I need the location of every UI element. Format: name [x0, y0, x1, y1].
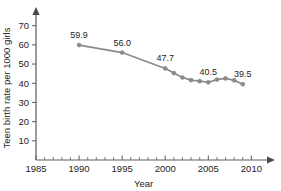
series-data-point: [163, 66, 167, 70]
data-point-label: 40.5: [200, 67, 218, 77]
y-tick-label: 50: [18, 58, 29, 69]
y-axis-title: Teen birth rate per 1000 girls: [1, 27, 12, 148]
x-axis-title: Year: [134, 178, 153, 189]
series-data-point: [180, 75, 184, 79]
y-tick-label: 60: [18, 39, 29, 50]
x-axis-tick-labels: 198519901995200020052010: [25, 163, 262, 174]
y-axis-tick-labels: 10203040506070: [18, 20, 29, 146]
series-data-point: [198, 79, 202, 83]
x-tick-label: 1990: [69, 163, 90, 174]
series-data-point: [223, 76, 227, 80]
series-data-point: [206, 80, 210, 84]
x-tick-label: 2010: [241, 163, 262, 174]
teen-birth-rate-chart: 10203040506070 Teen birth rate per 1000 …: [0, 0, 281, 191]
data-point-label: 59.9: [70, 30, 88, 40]
x-tick-label: 1985: [25, 163, 46, 174]
y-axis-group: 10203040506070 Teen birth rate per 1000 …: [1, 7, 40, 160]
x-axis-group: 198519901995200020052010 Year: [25, 156, 275, 190]
x-tick-label: 1995: [112, 163, 133, 174]
y-tick-label: 20: [18, 116, 29, 127]
data-point-label: 56.0: [113, 38, 131, 48]
data-point-label: 47.7: [156, 53, 174, 63]
y-axis-arrow-icon: [32, 7, 39, 15]
y-tick-label: 10: [18, 135, 29, 146]
x-axis-ticks: [36, 156, 251, 161]
y-tick-label: 30: [18, 97, 29, 108]
data-point-labels: 59.956.047.740.539.5: [70, 30, 251, 79]
x-tick-label: 2005: [198, 163, 219, 174]
x-axis-arrow-icon: [267, 156, 275, 163]
series-data-point: [215, 77, 219, 81]
series-data-point: [241, 82, 245, 86]
chart-canvas: 10203040506070 Teen birth rate per 1000 …: [0, 0, 281, 191]
series-data-point: [120, 50, 124, 54]
series-data-point: [77, 43, 81, 47]
series-data-point: [189, 78, 193, 82]
data-point-label: 39.5: [234, 69, 252, 79]
series-data-point: [172, 71, 176, 75]
x-tick-label: 2000: [155, 163, 176, 174]
y-tick-label: 70: [18, 20, 29, 31]
data-series-group: [77, 43, 245, 86]
y-tick-label: 40: [18, 78, 29, 89]
